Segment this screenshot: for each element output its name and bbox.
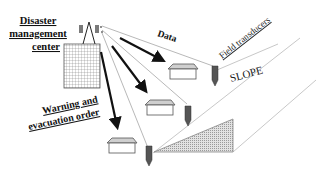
slope-section — [154, 119, 233, 152]
center-label-line1: Disaster — [20, 15, 57, 26]
center-label-line3: center — [32, 41, 60, 52]
house-icon — [107, 138, 137, 153]
early-warning-diagram: Disaster management center Data Field tr… — [0, 0, 316, 173]
slope-label: SLOPE — [228, 64, 264, 84]
sensor-icon — [185, 106, 191, 126]
sensor-icon — [212, 66, 218, 86]
center-label-line2: management — [9, 28, 67, 39]
house-icon — [168, 64, 198, 79]
sensor-icon — [146, 146, 152, 166]
data-label: Data — [156, 28, 178, 44]
house-icon — [145, 100, 175, 115]
field-transducers-label: Field transducers — [217, 14, 272, 60]
data-links — [102, 26, 213, 148]
